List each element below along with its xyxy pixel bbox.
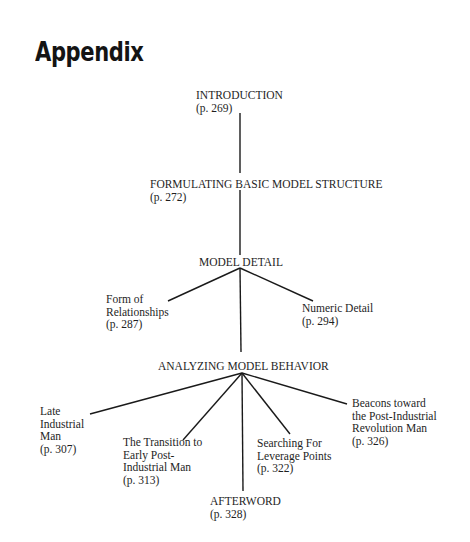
node-label-line: Late (40, 405, 84, 418)
node-introduction: INTRODUCTION (p. 269) (196, 89, 283, 114)
edge-detail-form (168, 268, 240, 301)
node-page: (p. 328) (210, 508, 281, 521)
edge-analyzing-searching (242, 373, 290, 434)
edge-analyzing-late (90, 373, 242, 414)
node-label: Numeric Detail (302, 302, 373, 315)
edge-analyzing-afterword (242, 373, 243, 491)
node-page: (p. 272) (150, 191, 382, 204)
node-label-line: Leverage Points (257, 450, 331, 463)
node-beacons: Beacons toward the Post-Industrial Revol… (352, 397, 437, 447)
node-page: (p. 313) (123, 474, 202, 487)
node-label-line: Early Post- (123, 449, 202, 462)
node-form-of-relationships: Form of Relationships (p. 287) (106, 293, 169, 331)
node-label: FORMULATING BASIC MODEL STRUCTURE (150, 178, 382, 191)
node-numeric-detail: Numeric Detail (p. 294) (302, 302, 373, 327)
node-label-line: Searching For (257, 437, 331, 450)
node-label-line: The Transition to (123, 436, 202, 449)
edge-detail-analyzing (240, 268, 241, 352)
node-label: ANALYZING MODEL BEHAVIOR (158, 360, 329, 373)
node-page: (p. 326) (352, 435, 437, 448)
node-label-line: Industrial Man (123, 461, 202, 474)
node-model-detail: MODEL DETAIL (199, 256, 283, 269)
node-label-line: Industrial (40, 418, 84, 431)
node-label-line: Form of (106, 293, 169, 306)
node-label-line: the Post-Industrial (352, 410, 437, 423)
node-analyzing: ANALYZING MODEL BEHAVIOR (158, 360, 329, 373)
node-afterword: AFTERWORD (p. 328) (210, 495, 281, 520)
edge-analyzing-beacons (242, 373, 347, 404)
edge-detail-numeric (240, 268, 313, 301)
node-label-line: Relationships (106, 306, 169, 319)
node-label-line: Beacons toward (352, 397, 437, 410)
tree-connectors (0, 0, 470, 542)
node-label: INTRODUCTION (196, 89, 283, 102)
node-page: (p. 307) (40, 443, 84, 456)
node-searching: Searching For Leverage Points (p. 322) (257, 437, 331, 475)
node-label: AFTERWORD (210, 495, 281, 508)
node-transition: The Transition to Early Post- Industrial… (123, 436, 202, 486)
node-page: (p. 294) (302, 315, 373, 328)
node-page: (p. 322) (257, 462, 331, 475)
node-page: (p. 269) (196, 102, 283, 115)
node-label-line: Man (40, 430, 84, 443)
node-formulating: FORMULATING BASIC MODEL STRUCTURE (p. 27… (150, 178, 382, 203)
node-late-industrial: Late Industrial Man (p. 307) (40, 405, 84, 455)
node-page: (p. 287) (106, 318, 169, 331)
edge-analyzing-transition (183, 373, 242, 440)
node-label: MODEL DETAIL (199, 256, 283, 269)
node-label-line: Revolution Man (352, 422, 437, 435)
